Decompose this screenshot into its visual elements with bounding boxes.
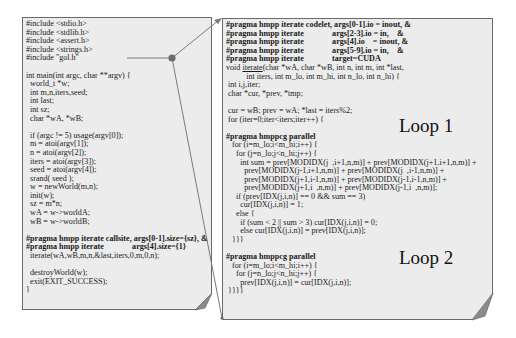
code-line: char *wA, *wB;: [26, 115, 208, 124]
code-line: exit(EXIT_SUCCESS);: [26, 278, 208, 287]
codelet-code-panel: #pragma hmpp iterate codelet, args[0-1].…: [222, 18, 493, 320]
code-line: }}}}: [226, 287, 477, 296]
caller-code-panel: #include <stdio.h>#include <stdlib.h>#in…: [22, 17, 212, 310]
code-line: prev[IDX(j,i,n)] = cur[IDX(j,i,n)];: [226, 279, 477, 288]
code-line: else cur[IDX(j,i,n)] = prev[IDX(j,i,n)];: [226, 227, 477, 236]
code-line: int last;: [26, 97, 208, 106]
loop-1-label: Loop 1: [399, 115, 453, 137]
code-line: cur[IDX(j,i,n)] = 1;: [226, 201, 477, 210]
loop-2-label: Loop 2: [399, 247, 453, 269]
code-line: int iters, int m_lo, int m_hi, int n_lo,…: [226, 73, 477, 82]
code-line: #include "gol.h": [26, 54, 208, 63]
main-source-code: #include <stdio.h>#include <stdlib.h>#in…: [26, 20, 208, 295]
code-line: }}}: [226, 236, 477, 245]
arrowhead-icon: [214, 18, 222, 24]
code-line: char *cur, *prev, *tmp;: [226, 90, 477, 99]
code-line: iterate(wA,wB,m,n,&last,iters,0,m,0,n);: [26, 252, 208, 261]
codelet-function-name: iterate: [242, 63, 262, 72]
code-line: wB = w->worldB;: [26, 218, 208, 227]
code-line: }: [26, 286, 208, 295]
